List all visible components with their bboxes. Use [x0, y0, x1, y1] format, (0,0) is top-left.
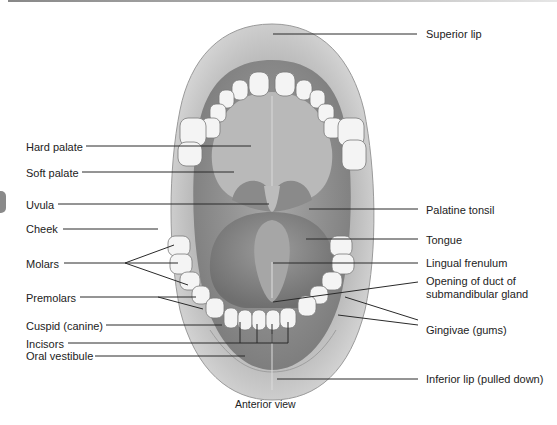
label-incisors: Incisors — [26, 338, 64, 350]
view-caption: Anterior view — [235, 398, 296, 410]
label-molars: Molars — [26, 258, 59, 270]
label-cuspid: Cuspid (canine) — [26, 320, 103, 332]
label-palatine-tonsil: Palatine tonsil — [426, 204, 495, 216]
label-duct-opening-1: Opening of duct of — [426, 275, 516, 287]
label-gingivae: Gingivae (gums) — [426, 324, 507, 336]
label-oral-vestibule: Oral vestibule — [26, 350, 93, 362]
label-superior-lip: Superior lip — [426, 28, 482, 40]
label-premolars: Premolars — [26, 292, 76, 304]
label-uvula: Uvula — [26, 199, 54, 211]
label-inferior-lip: Inferior lip (pulled down) — [426, 373, 543, 385]
label-hard-palate: Hard palate — [26, 141, 83, 153]
label-duct-opening-2: submandibular gland — [426, 288, 528, 300]
label-lingual-frenulum: Lingual frenulum — [426, 257, 507, 269]
label-cheek: Cheek — [26, 223, 58, 235]
label-soft-palate: Soft palate — [26, 167, 79, 179]
leader-molars-a — [125, 245, 174, 263]
label-tongue: Tongue — [426, 234, 462, 246]
